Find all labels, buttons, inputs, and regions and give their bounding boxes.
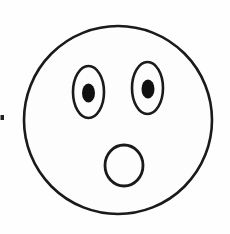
left-pupil — [82, 84, 95, 103]
mouth-open-circle — [105, 145, 143, 186]
edge-speck-artifact — [1, 115, 5, 120]
surprised-face-drawing — [0, 0, 230, 234]
image-canvas — [0, 0, 230, 234]
right-pupil — [142, 80, 155, 99]
